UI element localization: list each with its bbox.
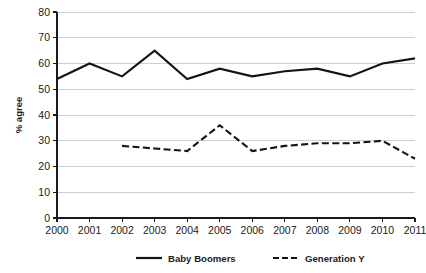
y-tick-label: 30	[38, 134, 50, 146]
y-tick-label: 40	[38, 109, 50, 121]
chart-legend: Baby BoomersGeneration Y	[136, 253, 365, 264]
y-tick-label: 60	[38, 57, 50, 69]
y-tick-label: 0	[44, 212, 50, 224]
series-line-generation-y	[122, 125, 415, 158]
x-tick-label: 2008	[306, 224, 330, 236]
chart-canvas: 01020304050607080 2000200120022003200420…	[0, 0, 426, 273]
x-tick-label: 2006	[241, 224, 265, 236]
x-tick-label: 2011	[404, 224, 426, 236]
x-tick-label: 2005	[208, 224, 232, 236]
x-axis-ticks-group: 2000200120022003200420052006200720082009…	[45, 218, 426, 236]
y-tick-label: 20	[38, 160, 50, 172]
x-tick-label: 2000	[45, 224, 69, 236]
legend-label-baby-boomers: Baby Boomers	[168, 253, 236, 264]
line-chart: 01020304050607080 2000200120022003200420…	[0, 0, 426, 273]
y-axis-ticks-group: 01020304050607080	[38, 6, 57, 224]
x-tick-label: 2002	[110, 224, 134, 236]
y-axis-title: % agree	[13, 97, 24, 133]
series-line-baby-boomers	[57, 51, 415, 79]
x-tick-label: 2009	[338, 224, 362, 236]
x-tick-label: 2007	[273, 224, 297, 236]
gridlines-group	[57, 12, 415, 192]
legend-label-generation-y: Generation Y	[305, 253, 365, 264]
y-tick-label: 70	[38, 31, 50, 43]
x-tick-label: 2003	[143, 224, 167, 236]
y-tick-label: 80	[38, 6, 50, 18]
data-series-group	[57, 51, 415, 159]
y-tick-label: 50	[38, 83, 50, 95]
x-tick-label: 2004	[176, 224, 200, 236]
x-tick-label: 2010	[371, 224, 395, 236]
x-tick-label: 2001	[78, 224, 102, 236]
y-tick-label: 10	[38, 186, 50, 198]
